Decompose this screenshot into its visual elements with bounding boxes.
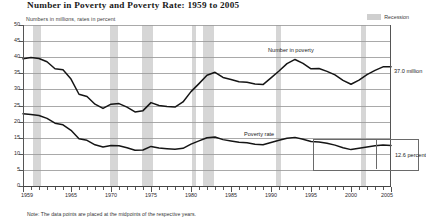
x-tick: [287, 187, 288, 190]
x-tick: [223, 187, 224, 190]
x-tick-label: 1985: [225, 193, 237, 198]
x-tick: [103, 187, 104, 190]
annotation-number-in-poverty: Number in poverty: [268, 47, 314, 53]
x-tick: [319, 187, 320, 190]
x-tick-label: 1970: [105, 193, 117, 198]
x-tick-label: 1959: [21, 193, 33, 198]
value-number-in-poverty: 37.0 million: [394, 68, 422, 74]
y-tick: [19, 57, 23, 58]
x-tick: [295, 187, 296, 190]
x-tick: [335, 187, 336, 190]
y-tick: [19, 122, 23, 123]
y-tick: [19, 170, 23, 171]
y-tick: [19, 41, 23, 42]
x-tick-label: 1965: [65, 193, 77, 198]
y-axis-labels: 05101520253035404550: [6, 25, 20, 186]
x-tick: [279, 187, 280, 190]
x-tick: [303, 187, 304, 190]
x-tick: [343, 187, 344, 190]
y-tick: [19, 154, 23, 155]
x-tick: [359, 187, 360, 190]
value-poverty-rate: 12.6 percent: [395, 152, 426, 158]
x-tick: [239, 187, 240, 190]
y-axis-line: [23, 25, 24, 187]
rate-highlight-box: [313, 139, 377, 169]
x-tick: [199, 187, 200, 190]
y-tick: [19, 106, 23, 107]
annotation-poverty-rate: Poverty rate: [244, 131, 274, 137]
chart-note: Note: The data points are placed at the …: [27, 211, 196, 217]
x-tick: [127, 187, 128, 190]
x-tick: [327, 187, 328, 190]
x-tick: [175, 187, 176, 190]
x-tick: [159, 187, 160, 190]
x-tick: [383, 187, 384, 190]
x-tick: [39, 187, 40, 190]
x-tick: [375, 187, 376, 190]
x-tick-label: 1990: [265, 193, 277, 198]
x-tick-label: 2000: [345, 193, 357, 198]
line-number-in-poverty: [23, 58, 391, 112]
x-tick: [47, 187, 48, 190]
y-tick: [19, 25, 23, 26]
x-tick: [95, 187, 96, 190]
x-tick: [215, 187, 216, 190]
y-tick: [19, 89, 23, 90]
x-tick: [55, 187, 56, 190]
x-tick: [367, 187, 368, 190]
x-tick: [87, 187, 88, 190]
x-tick-label: 1980: [185, 193, 197, 198]
x-tick-label: 1995: [305, 193, 317, 198]
x-tick: [207, 187, 208, 190]
x-tick: [183, 187, 184, 190]
x-tick: [135, 187, 136, 190]
y-tick: [19, 138, 23, 139]
x-tick: [143, 187, 144, 190]
x-tick: [255, 187, 256, 190]
x-tick: [263, 187, 264, 190]
x-tick: [79, 187, 80, 190]
x-tick: [247, 187, 248, 190]
x-tick: [63, 187, 64, 190]
y-tick: [19, 73, 23, 74]
x-tick: [167, 187, 168, 190]
x-tick: [31, 187, 32, 190]
x-tick: [119, 187, 120, 190]
x-tick-label: 2005: [381, 193, 393, 198]
x-tick-label: 1975: [145, 193, 157, 198]
